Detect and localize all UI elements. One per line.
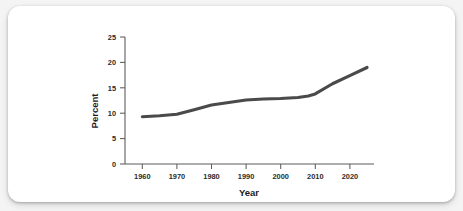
x-axis-label: Year [239,187,259,198]
chart-svg: Percent 0 5 10 15 20 [88,18,393,203]
y-axis-label: Percent [89,93,100,129]
y-tick-label: 0 [112,160,116,169]
x-tick-label: 1960 [134,172,150,181]
x-tick-label: 2000 [272,172,288,181]
x-tick-label: 2020 [342,172,358,181]
y-tick-label: 10 [108,109,116,118]
x-axis-ticks: 1960 1970 1980 1990 2000 2010 2020 [134,164,358,181]
y-tick-label: 25 [108,33,116,42]
line-chart-figure: Percent 0 5 10 15 20 [88,18,393,203]
x-tick-label: 1970 [169,172,185,181]
x-tick-label: 1990 [238,172,254,181]
series-line-percent [142,67,367,116]
chart-card: Percent 0 5 10 15 20 [8,6,455,202]
x-tick-label: 1980 [203,172,219,181]
y-tick-label: 5 [112,134,116,143]
y-tick-label: 15 [108,84,116,93]
screenshot-root: Percent 0 5 10 15 20 [0,0,463,211]
y-tick-label: 20 [108,58,116,67]
y-axis-ticks: 0 5 10 15 20 25 [108,33,125,169]
x-tick-label: 2010 [307,172,323,181]
